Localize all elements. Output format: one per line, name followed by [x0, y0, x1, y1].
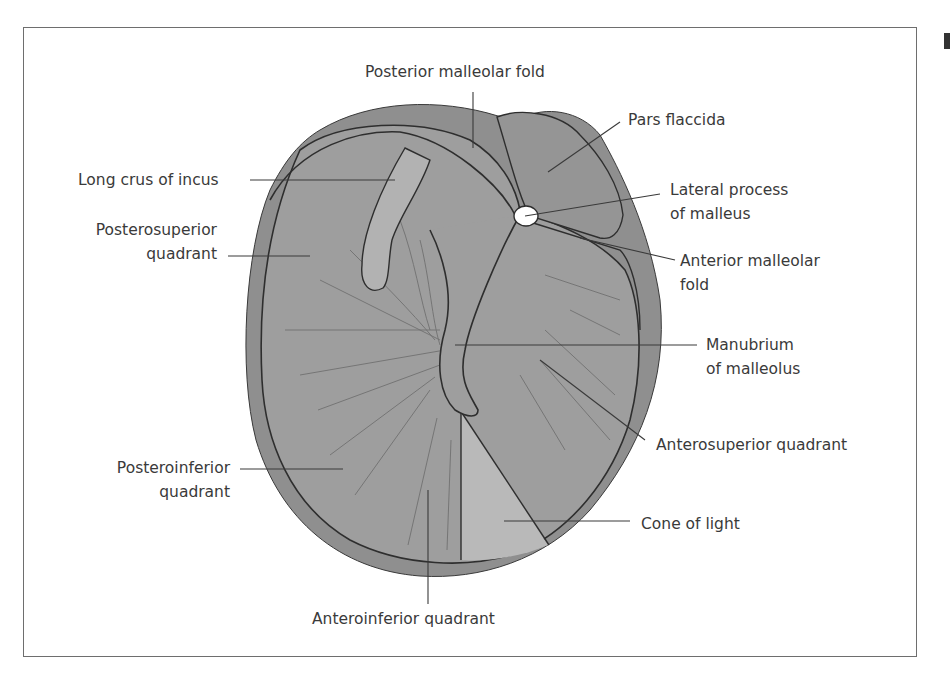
label-manubrium-of-malleolus: Manubrium of malleolus — [706, 333, 800, 381]
label-lateral-process-of-malleus: Lateral process of malleus — [670, 178, 788, 226]
label-anterior-malleolar-fold: Anterior malleolar fold — [680, 249, 820, 297]
label-cone-of-light: Cone of light — [641, 512, 740, 536]
label-posterosuperior-quadrant: Posterosuperior quadrant — [72, 218, 217, 266]
label-pars-flaccida: Pars flaccida — [628, 108, 725, 132]
label-anterosuperior-quadrant: Anterosuperior quadrant — [656, 433, 847, 457]
tympanic-membrane-diagram — [0, 0, 950, 674]
label-anteroinferior-quadrant: Anteroinferior quadrant — [312, 607, 495, 631]
label-posterior-malleolar-fold: Posterior malleolar fold — [365, 60, 545, 84]
label-long-crus-of-incus: Long crus of incus — [78, 168, 219, 192]
label-posteroinferior-quadrant: Posteroinferior quadrant — [80, 456, 230, 504]
